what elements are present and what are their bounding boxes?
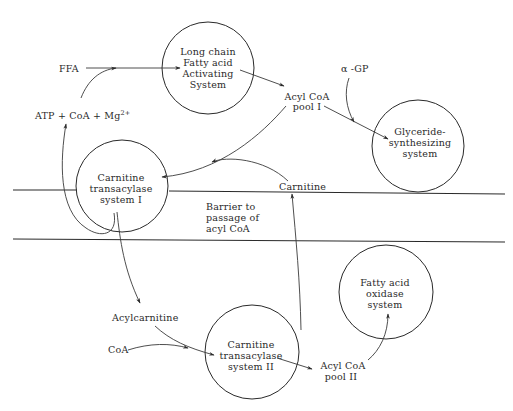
label-cofactors: ATP + CoA + Mg — [34, 110, 121, 121]
node-label: System — [190, 79, 226, 90]
node-label: Glyceride- — [394, 126, 445, 137]
label-alpha-gp: α -GP — [341, 63, 369, 74]
node-label: Carnitine — [227, 339, 274, 350]
node-label: system I — [100, 194, 142, 205]
arrow-carnitine-up-through-barrier — [292, 194, 301, 330]
label-acyl-coa-pool-2-line2: pool II — [325, 371, 358, 382]
node-label: Activating — [181, 68, 233, 79]
label-coa: CoA — [108, 344, 128, 355]
node-label: transacylase — [90, 183, 153, 194]
node-label: system — [403, 148, 438, 159]
arrow-carnitine-to-transacylase1 — [212, 159, 288, 181]
label-barrier-line2: passage of — [206, 212, 260, 223]
arrow-pool1-to-transacylase1 — [162, 106, 286, 177]
node-label: synthesizing — [389, 137, 451, 148]
node-label: Long chain — [180, 46, 236, 57]
node-label: Carnitine — [97, 172, 144, 183]
membrane-lower-line — [13, 239, 505, 242]
node-label: system II — [228, 361, 274, 372]
node-label: oxidase — [366, 288, 404, 299]
node-label: system — [368, 299, 403, 310]
label-cofactors-superscript: 2+ — [121, 109, 131, 117]
label-carnitine: Carnitine — [279, 181, 326, 192]
arrow-transacylase1-to-acylcarnitine — [117, 212, 140, 303]
node-fatty-acid-oxidase-system: Fatty acid oxidase system — [339, 245, 433, 339]
label-acyl-coa-pool-1-line2: pool I — [293, 101, 322, 112]
node-label: transacylase — [220, 350, 283, 361]
node-glyceride-synthesizing-system: Glyceride- synthesizing system — [372, 100, 464, 192]
node-label: Fatty acid — [360, 277, 410, 288]
arrow-alpha-gp-to-glyceride — [346, 78, 354, 122]
label-atp-coa-mg: ATP + CoA + Mg2+ — [34, 109, 131, 121]
arrow-transacylase2-to-pool2 — [277, 358, 312, 369]
label-barrier-line3: acyl CoA — [206, 223, 250, 234]
arrow-coa-to-transacylase2 — [128, 344, 188, 350]
node-label: Fatty acid — [183, 57, 233, 68]
label-barrier-line1: Barrier to — [206, 201, 256, 212]
arrow-activating-to-pool1 — [240, 70, 284, 86]
carnitine-shuttle-diagram: Long chain Fatty acid Activating System … — [0, 0, 513, 411]
label-acyl-coa-pool-2-line1: Acyl CoA — [319, 360, 365, 371]
label-acylcarnitine: Acylcarnitine — [111, 312, 179, 323]
membrane-upper-line-right — [169, 191, 505, 194]
arrow-cofactors-join-ffa — [81, 68, 116, 98]
node-carnitine-transacylase-system-2: Carnitine transacylase system II — [205, 305, 299, 399]
label-ffa: FFA — [59, 63, 79, 74]
node-carnitine-transacylase-system-1: Carnitine transacylase system I — [76, 140, 168, 232]
